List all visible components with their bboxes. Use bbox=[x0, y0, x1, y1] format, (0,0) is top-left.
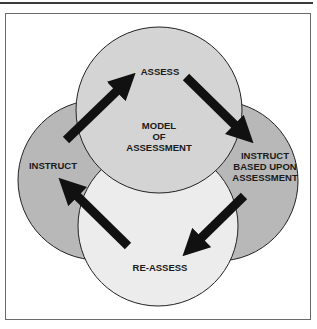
label-center-line2: OF bbox=[152, 131, 165, 142]
label-instruct-based-line1: INSTRUCT bbox=[241, 150, 289, 161]
label-center-line1: MODEL bbox=[142, 120, 177, 131]
label-instruct-based-line2: BASED UPON bbox=[233, 161, 296, 172]
label-instruct-based-line3: ASSESSMENT bbox=[232, 172, 298, 183]
label-re-assess: RE-ASSESS bbox=[133, 262, 188, 273]
label-instruct: INSTRUCT bbox=[29, 160, 77, 171]
label-assess: ASSESS bbox=[141, 66, 180, 77]
label-center-line3: ASSESSMENT bbox=[126, 142, 192, 153]
cycle-diagram: ASSESS MODEL OF ASSESSMENT INSTRUCT BASE… bbox=[0, 0, 317, 329]
